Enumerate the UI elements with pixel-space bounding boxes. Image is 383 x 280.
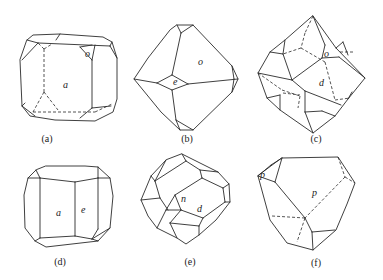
crystal-d xyxy=(24,166,113,247)
caption-c: (c) xyxy=(310,134,321,144)
face-label-a-o: o xyxy=(85,49,90,59)
crystal-figure: o a o e o d a e n d p p (a) (b) (c) (d) … xyxy=(0,0,383,280)
crystal-c xyxy=(258,16,365,133)
crystal-f xyxy=(258,157,355,250)
caption-e: (e) xyxy=(184,257,195,267)
caption-a: (a) xyxy=(41,134,52,144)
caption-f: (f) xyxy=(311,258,321,268)
face-label-d-e: e xyxy=(81,205,85,215)
caption-d: (d) xyxy=(54,257,66,267)
face-label-f-p-large: p xyxy=(312,188,317,198)
face-label-c-d: d xyxy=(319,78,324,88)
caption-b: (b) xyxy=(181,134,193,144)
face-label-f-p-small: p xyxy=(260,170,265,180)
face-label-c-o: o xyxy=(324,49,329,59)
face-label-e-n: n xyxy=(181,194,186,204)
face-label-e-d: d xyxy=(197,204,202,214)
face-label-b-o: o xyxy=(198,57,203,67)
face-label-b-e: e xyxy=(173,77,177,87)
face-label-a-a: a xyxy=(63,80,68,90)
face-label-d-a: a xyxy=(56,208,61,218)
crystal-a xyxy=(20,34,117,121)
crystal-b xyxy=(134,25,238,130)
